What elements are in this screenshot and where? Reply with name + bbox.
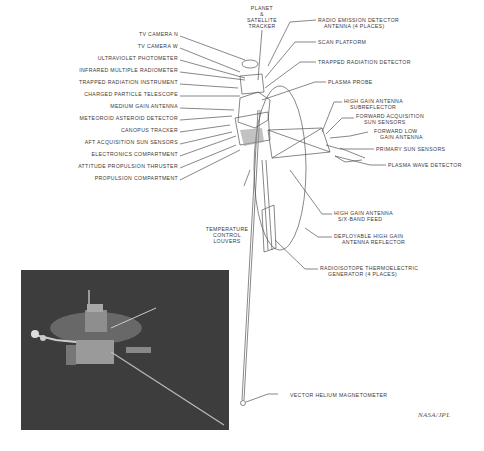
label-line: LOUVERS xyxy=(202,238,252,244)
label-line: ANTENNA REFLECTOR xyxy=(334,239,405,245)
label-ultraviolet-photometer: ULTRAVIOLET PHOTOMETER xyxy=(60,55,178,61)
label-infrared-multiple-radiometer: INFRARED MULTIPLE RADIOMETER xyxy=(40,67,178,73)
label-line: TRACKER xyxy=(240,23,284,29)
label-radioisotope-thermoelectric-generator: RADIOISOTOPE THERMOELECTRIC GENERATOR (4… xyxy=(320,265,418,277)
label-primary-sun-sensors: PRIMARY SUN SENSORS xyxy=(376,146,445,152)
label-high-gain-antenna-subreflector: HIGH GAIN ANTENNA SUBREFLECTOR xyxy=(344,98,403,110)
label-line: SUN SENSORS xyxy=(356,119,424,125)
label-line: S/X-BAND FEED xyxy=(334,216,393,222)
label-canopus-tracker: CANOPUS TRACKER xyxy=(40,127,178,133)
label-line: GAIN ANTENNA xyxy=(374,134,423,140)
label-attitude-propulsion-thruster: ATTITUDE PROPULSION THRUSTER xyxy=(40,163,178,169)
label-scan-platform: SCAN PLATFORM xyxy=(318,39,366,45)
label-vector-helium-magnetometer: VECTOR HELIUM MAGNETOMETER xyxy=(290,392,387,398)
label-tv-camera-n: TV CAMERA N xyxy=(90,31,178,37)
label-line: GENERATOR (4 PLACES) xyxy=(320,271,418,277)
label-tv-camera-w: TV CAMERA W xyxy=(90,43,178,49)
label-propulsion-compartment: PROPULSION COMPARTMENT xyxy=(40,175,178,181)
label-radio-emission-detector-antenna: RADIO EMISSION DETECTOR ANTENNA (4 PLACE… xyxy=(318,17,399,29)
label-trapped-radiation-detector: TRAPPED RADIATION DETECTOR xyxy=(318,59,411,65)
label-deployable-high-gain-antenna-reflector: DEPLOYABLE HIGH GAIN ANTENNA REFLECTOR xyxy=(334,233,405,245)
label-line: SUBREFLECTOR xyxy=(344,104,403,110)
label-medium-gain-antenna: MEDIUM GAIN ANTENNA xyxy=(40,103,178,109)
label-plasma-probe: PLASMA PROBE xyxy=(328,79,373,85)
label-temperature-control-louvers: TEMPERATURE CONTROL LOUVERS xyxy=(202,226,252,244)
label-meteoroid-asteroid-detector: METEOROID ASTEROID DETECTOR xyxy=(40,115,178,121)
spacecraft-render xyxy=(21,270,229,430)
label-planet-satellite-tracker: PLANET & SATELLITE TRACKER xyxy=(240,5,284,29)
label-charged-particle-telescope: CHARGED PARTICLE TELESCOPE xyxy=(40,91,178,97)
label-high-gain-antenna-feed: HIGH GAIN ANTENNA S/X-BAND FEED xyxy=(334,210,393,222)
label-plasma-wave-detector: PLASMA WAVE DETECTOR xyxy=(388,162,462,168)
spacecraft-photo xyxy=(21,270,229,430)
label-line: ANTENNA (4 PLACES) xyxy=(318,23,399,29)
label-electronics-compartment: ELECTRONICS COMPARTMENT xyxy=(40,151,178,157)
label-forward-low-gain-antenna: FORWARD LOW GAIN ANTENNA xyxy=(374,128,423,140)
label-aft-acquisition-sun-sensors: AFT ACQUISITION SUN SENSORS xyxy=(40,139,178,145)
label-trapped-radiation-instrument: TRAPPED RADIATION INSTRUMENT xyxy=(40,79,178,85)
label-forward-acquisition-sun-sensors: FORWARD ACQUISITION SUN SENSORS xyxy=(356,113,424,125)
credit-nasa-jpl: NASA/JPL xyxy=(418,411,450,419)
